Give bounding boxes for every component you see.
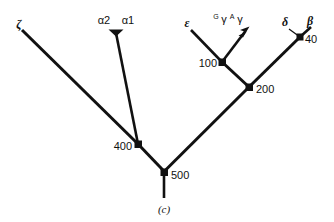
node-label-40: 40 [305, 33, 317, 45]
phylogenetic-tree-figure: 40 100 200 400 500 ζ α2 α1 ε G γ A γ δ β… [0, 0, 334, 222]
node-label-100: 100 [199, 57, 217, 69]
tip-label-alpha1: α1 [122, 14, 134, 26]
tip-label-beta: β [306, 14, 314, 28]
branch-n400-to-zeta [22, 30, 138, 144]
tip-label-gamma-a: γ [237, 13, 243, 25]
node-marker-400[interactable] [135, 141, 143, 149]
tip-markers [109, 27, 250, 38]
node-marker-40[interactable] [297, 34, 304, 41]
node-marker-200[interactable] [246, 84, 254, 92]
branch-n200-to-n40 [249, 37, 300, 87]
tip-label-epsilon: ε [185, 16, 190, 30]
node-label-500: 500 [171, 169, 189, 181]
tree-svg: 40 100 200 400 500 ζ α2 α1 ε G γ A γ δ β… [0, 0, 334, 222]
figure-caption: (c) [158, 203, 171, 216]
node-label-400: 400 [114, 140, 132, 152]
tip-label-alpha2: α2 [98, 14, 110, 26]
alpha-fork-triangle-icon [109, 30, 124, 37]
node-label-200: 200 [256, 83, 274, 95]
tip-label-gamma-group: G γ A γ [213, 13, 243, 25]
tip-label-gamma-g-superscript: G [213, 13, 218, 20]
tip-label-zeta: ζ [16, 17, 22, 31]
tip-label-gamma-a-superscript: A [230, 13, 235, 20]
tip-label-gamma-g: γ [221, 13, 227, 25]
tip-label-delta: δ [282, 15, 288, 29]
node-marker-100[interactable] [219, 59, 227, 67]
tree-nodes [135, 34, 304, 177]
branch-n500-to-n400 [138, 144, 165, 172]
node-marker-500[interactable] [161, 169, 169, 177]
branch-n500-to-n200 [164, 87, 249, 172]
tip-labels: ζ α2 α1 ε G γ A γ δ β [16, 13, 314, 31]
